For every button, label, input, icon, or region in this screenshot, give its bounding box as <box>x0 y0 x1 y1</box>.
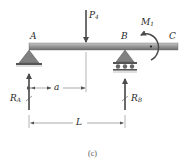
reaction-a-subscript: A <box>17 97 21 103</box>
pin-support-a <box>16 50 42 66</box>
point-load-subscript: 4 <box>95 14 99 20</box>
reaction-a-label: RA <box>10 94 21 104</box>
reaction-b-label: RB <box>131 94 142 104</box>
reaction-b-subscript: B <box>138 97 142 103</box>
moment-subscript: 1 <box>150 21 154 27</box>
moment-label: M1 <box>141 18 154 28</box>
point-load-label: P4 <box>89 11 99 21</box>
point-c-label: C <box>169 32 176 41</box>
figure-caption: (c) <box>88 150 97 158</box>
reaction-a-symbol: R <box>10 93 17 103</box>
reaction-b-symbol: R <box>131 93 138 103</box>
reaction-arrow-b <box>122 79 128 110</box>
beam <box>29 43 178 50</box>
roller-support-b <box>113 50 137 72</box>
dimension-l-label: L <box>76 118 82 127</box>
moment-symbol: M <box>141 17 150 27</box>
beam-diagram-svg <box>0 0 191 165</box>
dimension-a-label: a <box>54 83 59 92</box>
point-a-label: A <box>30 32 37 41</box>
point-b-label: B <box>121 32 128 41</box>
reaction-arrow-a <box>26 74 32 110</box>
beam-diagram: A B C P4 M1 RA RB a L (c) <box>0 0 191 165</box>
